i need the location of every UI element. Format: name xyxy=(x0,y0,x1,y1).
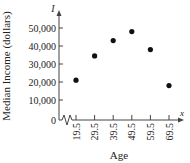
axes xyxy=(57,10,185,125)
y-axis-title: Median Income (dollars) xyxy=(0,11,13,121)
x-axis-arrow-icon xyxy=(178,118,184,123)
data-point xyxy=(148,47,153,52)
y-axis-symbol: I xyxy=(50,3,55,14)
x-axis-title: Age xyxy=(110,149,128,161)
y-tick-label: 20,000 xyxy=(29,77,57,88)
scatter-chart: Median Income (dollars) 010,00020,00030,… xyxy=(0,0,190,163)
y-tick-label: 0 xyxy=(51,115,56,126)
y-tick-label: 40,000 xyxy=(29,41,57,52)
x-tick-label: 39.5 xyxy=(108,123,119,141)
y-ticks: 010,00020,00030,00040,00050,000 xyxy=(29,23,64,126)
y-tick-label: 10,000 xyxy=(29,95,57,106)
x-tick-label: 29.5 xyxy=(89,123,100,141)
x-ticks: 19.529.539.549.559.569.5 xyxy=(71,115,175,141)
x-axis-symbol: x xyxy=(179,108,184,118)
y-tick-label: 30,000 xyxy=(29,59,57,70)
y-axis-arrow-icon xyxy=(57,10,62,16)
data-point xyxy=(129,29,134,34)
data-point xyxy=(92,53,97,58)
x-tick-label: 49.5 xyxy=(126,123,137,141)
data-point xyxy=(111,38,116,43)
data-point xyxy=(166,83,171,88)
x-tick-label: 19.5 xyxy=(71,123,82,141)
data-point xyxy=(73,78,78,83)
x-tick-label: 69.5 xyxy=(164,123,175,141)
y-tick-label: 50,000 xyxy=(29,23,57,34)
data-points xyxy=(73,29,171,88)
x-tick-label: 59.5 xyxy=(145,123,156,141)
y-axis-label: Median Income (dollars) xyxy=(0,11,13,121)
